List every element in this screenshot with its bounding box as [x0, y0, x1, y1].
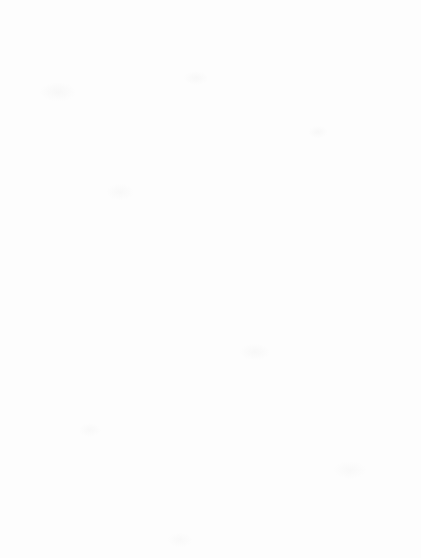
chart-panel-top: [0, 0, 421, 278]
line-chart-bottom: [0, 280, 421, 558]
chart-panel-bottom: [0, 280, 421, 558]
line-chart-top: [0, 0, 421, 278]
